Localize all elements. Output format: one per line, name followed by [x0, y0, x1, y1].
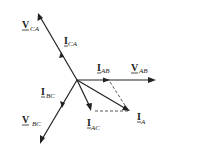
i-a-arrowhead — [122, 105, 130, 111]
label-v-ab: V AB — [131, 62, 148, 75]
svg-text:V: V — [22, 19, 30, 30]
label-v-bc: V BC — [22, 114, 41, 128]
label-i-bc: I BC — [41, 86, 55, 100]
svg-text:CA: CA — [30, 25, 40, 33]
svg-text:V: V — [131, 62, 139, 73]
dashed-line-iab-to-ia — [110, 82, 126, 107]
svg-text:V: V — [22, 114, 30, 125]
svg-text:BC: BC — [46, 92, 55, 100]
svg-text:A: A — [140, 118, 146, 126]
label-i-ac: I AC — [87, 117, 100, 132]
i-ab-arrowhead — [103, 78, 110, 83]
i-ca-arrowhead — [59, 52, 64, 58]
svg-text:AB: AB — [100, 67, 110, 75]
svg-text:BC: BC — [32, 120, 41, 128]
svg-text:I: I — [41, 86, 45, 97]
label-v-ca: V CA — [22, 19, 40, 33]
v-bc-vector — [41, 80, 77, 141]
v-ab-arrowhead — [148, 77, 156, 83]
svg-text:AB: AB — [138, 67, 148, 75]
svg-text:CA: CA — [68, 40, 78, 48]
label-i-a: I A — [137, 111, 146, 126]
label-i-ab: I AB — [97, 62, 110, 75]
label-i-ca: I CA — [64, 35, 78, 48]
i-ac-arrowhead — [86, 103, 92, 111]
svg-text:AC: AC — [90, 124, 100, 132]
phasor-diagram: V CA I CA I AB V AB I BC V BC I AC I A — [0, 0, 222, 150]
